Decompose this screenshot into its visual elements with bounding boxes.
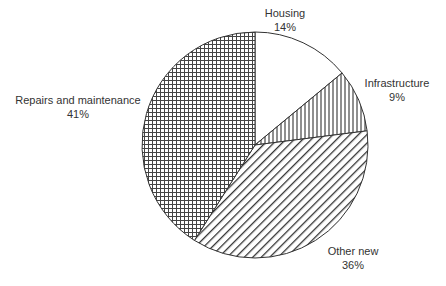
pie-chart: Housing 14% Infrastructure 9% Other new … (0, 0, 446, 286)
slice-value-repairs-and-maintenance: 41% (67, 108, 89, 120)
slice-label-repairs-and-maintenance: Repairs and maintenance (15, 94, 140, 106)
slice-label-infrastructure: Infrastructure (365, 77, 430, 89)
pie-slices (142, 32, 368, 258)
slice-value-other-new: 36% (342, 259, 364, 271)
slice-label-housing: Housing (265, 7, 305, 19)
slice-label-other-new: Other new (328, 245, 379, 257)
slice-value-infrastructure: 9% (389, 91, 405, 103)
slice-value-housing: 14% (274, 21, 296, 33)
